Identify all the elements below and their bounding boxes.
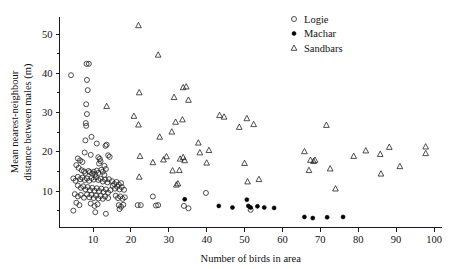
- x-tick-label: 80: [353, 234, 364, 245]
- sandbars-point: [397, 163, 403, 168]
- legend-marker-logie-point: [292, 17, 297, 22]
- logie-point: [203, 190, 208, 195]
- machar-point: [183, 197, 187, 201]
- legend-label-sandbars: Sandbars: [304, 43, 343, 54]
- sandbars-point: [157, 134, 163, 139]
- logie-point: [102, 172, 107, 177]
- logie-point: [92, 203, 97, 208]
- series-sandbars: [104, 22, 429, 191]
- sandbars-point: [423, 150, 429, 155]
- y-tick-label: 20: [42, 146, 53, 157]
- machar-point: [325, 215, 329, 219]
- legend-label-logie: Logie: [304, 14, 329, 25]
- logie-point: [69, 73, 74, 78]
- y-axis-title-line2: distance between males (m): [22, 63, 34, 180]
- x-tick-label: 20: [126, 234, 137, 245]
- x-tick-label: 100: [426, 234, 442, 245]
- sandbars-point: [244, 115, 250, 120]
- logie-point: [103, 211, 108, 216]
- logie-point: [89, 134, 94, 139]
- x-axis-title: Number of birds in area: [201, 253, 302, 264]
- sandbars-point: [170, 168, 176, 173]
- sandbars-point: [177, 167, 183, 172]
- logie-point: [82, 150, 87, 155]
- sandbars-point: [104, 103, 110, 108]
- machar-point: [230, 205, 234, 209]
- data-points: [69, 22, 429, 220]
- sandbars-point: [155, 52, 161, 57]
- logie-point: [84, 102, 89, 107]
- sandbars-point: [150, 159, 156, 164]
- scatter-plot-figure: 1020304050607080901001020304050 Number o…: [0, 0, 450, 269]
- legend-item-logie[interactable]: Logie: [292, 14, 329, 25]
- x-tick-label: 10: [88, 234, 99, 245]
- sandbars-point: [377, 151, 383, 156]
- sandbars-point: [217, 112, 223, 117]
- sandbars-point: [171, 94, 177, 99]
- logie-point: [81, 195, 86, 200]
- machar-point: [302, 215, 306, 219]
- legend-marker-sandbars-point: [291, 45, 297, 50]
- legend-item-machar[interactable]: Machar: [292, 28, 337, 39]
- logie-point: [78, 192, 83, 197]
- logie-point: [106, 196, 111, 201]
- series-machar: [183, 197, 345, 220]
- sandbars-point: [131, 113, 137, 118]
- logie-point: [138, 203, 143, 208]
- y-tick-label: 10: [42, 186, 53, 197]
- sandbars-point: [136, 22, 142, 27]
- logie-point: [94, 141, 99, 146]
- sandbars-point: [306, 167, 312, 172]
- sandbars-point: [197, 150, 203, 155]
- sandbars-point: [180, 117, 186, 122]
- sandbars-point: [173, 119, 179, 124]
- y-tick-label: 30: [42, 107, 53, 118]
- sandbars-point: [423, 144, 429, 149]
- legend: LogieMacharSandbars: [291, 14, 342, 54]
- plot-canvas: 1020304050607080901001020304050 Number o…: [0, 0, 450, 269]
- machar-point: [311, 216, 315, 220]
- sandbars-point: [324, 122, 330, 127]
- logie-point: [83, 138, 88, 143]
- machar-point: [341, 215, 345, 219]
- logie-point: [84, 77, 89, 82]
- sandbars-point: [136, 174, 142, 179]
- x-tick-label: 60: [277, 234, 288, 245]
- axes: 1020304050607080901001020304050: [42, 17, 442, 245]
- sandbars-point: [206, 147, 212, 152]
- sandbars-point: [327, 166, 333, 171]
- machar-point: [249, 205, 253, 209]
- machar-point: [217, 204, 221, 208]
- sandbars-point: [302, 148, 308, 153]
- sandbars-point: [378, 171, 384, 176]
- logie-point: [85, 88, 90, 93]
- sandbars-point: [251, 121, 257, 126]
- sandbars-point: [333, 186, 339, 191]
- logie-point: [88, 152, 93, 157]
- sandbars-point: [386, 144, 392, 149]
- x-tick-label: 70: [315, 234, 326, 245]
- machar-point: [262, 205, 266, 209]
- sandbars-point: [236, 124, 242, 129]
- sandbars-point: [161, 157, 167, 162]
- sandbars-point: [186, 97, 192, 102]
- logie-point: [103, 167, 108, 172]
- logie-point: [93, 210, 98, 215]
- sandbars-point: [256, 176, 262, 181]
- logie-point: [186, 206, 191, 211]
- y-tick-label: 40: [42, 68, 53, 79]
- sandbars-point: [242, 160, 248, 165]
- logie-point: [103, 143, 108, 148]
- x-tick-label: 30: [164, 234, 175, 245]
- logie-point: [84, 112, 89, 117]
- sandbars-point: [136, 89, 142, 94]
- sandbars-point: [351, 153, 357, 158]
- x-tick-label: 40: [201, 234, 212, 245]
- y-axis-title-line1: Mean nearest-neighbour: [9, 70, 20, 173]
- legend-item-sandbars[interactable]: Sandbars: [291, 43, 342, 54]
- logie-point: [150, 194, 155, 199]
- machar-point: [245, 198, 249, 202]
- sandbars-point: [363, 148, 369, 153]
- x-tick-label: 50: [239, 234, 250, 245]
- logie-point: [95, 202, 100, 207]
